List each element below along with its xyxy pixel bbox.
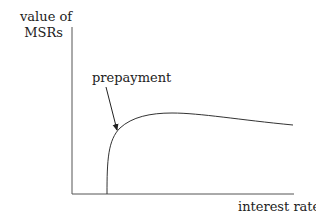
msr-value-curve [107,113,293,194]
diagram-canvas [0,0,316,220]
annotation-arrow [106,87,117,130]
